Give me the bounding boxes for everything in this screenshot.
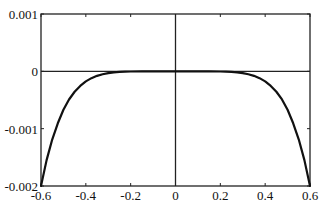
x-tick-label: 0.4 xyxy=(257,188,274,203)
x-tick-label: 0.2 xyxy=(212,188,228,203)
chart: -0.6-0.4-0.200.20.40.6-0.002-0.00100.001 xyxy=(0,0,322,205)
y-tick-label: -0.002 xyxy=(4,179,38,194)
y-tick-label: 0.001 xyxy=(9,7,38,22)
x-tick-label: -0.4 xyxy=(76,188,97,203)
axes xyxy=(41,14,310,186)
x-tick-label: 0.6 xyxy=(302,188,319,203)
x-tick-label: -0.2 xyxy=(120,188,141,203)
tick-labels: -0.6-0.4-0.200.20.40.6-0.002-0.00100.001 xyxy=(4,7,318,203)
x-tick-label: 0 xyxy=(172,188,179,203)
y-tick-label: -0.001 xyxy=(4,122,38,137)
y-tick-label: 0 xyxy=(32,64,39,79)
